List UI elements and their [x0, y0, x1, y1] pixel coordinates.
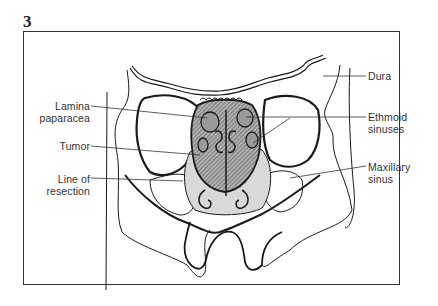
label-ethmoid-line1: Ethmoid	[368, 111, 407, 123]
right-skull-outline	[345, 68, 354, 228]
label-maxillary-sinus: Maxillary sinus	[368, 161, 410, 185]
label-lamina-line1: Lamina	[30, 100, 90, 112]
anatomical-illustration	[0, 0, 438, 306]
label-ethmoid-sinuses: Ethmoid sinuses	[368, 111, 407, 135]
label-lamina-paparacea: Lamina paparacea	[30, 100, 90, 124]
left-skull-outline	[106, 92, 107, 290]
right-orbit	[263, 96, 319, 167]
label-dura: Dura	[368, 70, 391, 82]
dura-outline	[130, 55, 326, 95]
label-ethmoid-line2: sinuses	[368, 123, 407, 135]
label-tumor: Tumor	[30, 140, 90, 152]
label-tumor-text: Tumor	[30, 140, 90, 152]
label-maxillary-line2: sinus	[368, 173, 410, 185]
label-resection-line1: Line of	[30, 173, 90, 185]
label-line-of-resection: Line of resection	[30, 173, 90, 197]
label-dura-text: Dura	[368, 70, 391, 82]
label-lamina-line2: paparacea	[30, 112, 90, 124]
label-resection-line2: resection	[30, 185, 90, 197]
label-maxillary-line1: Maxillary	[368, 161, 410, 173]
